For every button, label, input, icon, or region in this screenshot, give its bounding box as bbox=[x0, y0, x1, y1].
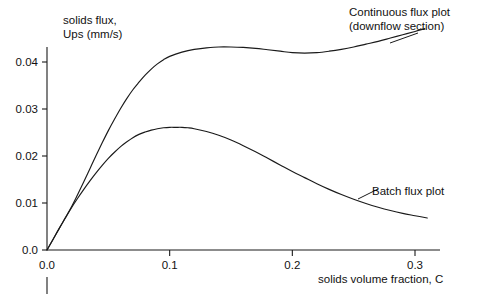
continuous-flux-label-line1: Continuous flux plot bbox=[349, 6, 451, 18]
annotation-leaders bbox=[358, 33, 418, 199]
x-tick-label-1: 0.1 bbox=[162, 259, 178, 271]
y-tick-label-2: 0.02 bbox=[16, 150, 38, 162]
y-tick-label-1: 0.01 bbox=[16, 197, 38, 209]
y-axis-tick-labels: 0.00.010.020.030.04 bbox=[16, 56, 39, 256]
y-axis-title-line1: solids flux, bbox=[63, 14, 117, 26]
continuous-flux-label-line2: (downflow section) bbox=[349, 20, 444, 32]
flux-plot-figure: 0.00.010.020.030.04 0.00.10.20.3 solids … bbox=[0, 0, 500, 303]
y-tick-label-0: 0.0 bbox=[22, 244, 38, 256]
x-tick-label-2: 0.2 bbox=[284, 259, 300, 271]
x-axis-tick-labels: 0.00.10.20.3 bbox=[39, 259, 423, 271]
continuous-flux-curve bbox=[47, 29, 425, 250]
x-axis-ticks bbox=[170, 250, 415, 256]
data-curves bbox=[47, 29, 427, 250]
x-tick-label-3: 0.3 bbox=[407, 259, 423, 271]
flux-chart: 0.00.010.020.030.04 0.00.10.20.3 solids … bbox=[0, 0, 500, 303]
y-tick-label-3: 0.03 bbox=[16, 103, 38, 115]
batch-flux-label: Batch flux plot bbox=[372, 185, 445, 197]
y-tick-label-4: 0.04 bbox=[16, 56, 39, 68]
x-tick-label-0: 0.0 bbox=[39, 259, 55, 271]
y-axis-ticks bbox=[42, 62, 47, 250]
axes bbox=[47, 47, 440, 294]
y-axis-title-line2: Ups (mm/s) bbox=[63, 28, 123, 40]
x-axis-title: solids volume fraction, C bbox=[318, 273, 443, 285]
axis-titles: solids flux, Ups (mm/s) solids volume fr… bbox=[63, 14, 443, 285]
batch-flux-curve bbox=[47, 127, 427, 250]
annotations: Continuous flux plot (downflow section) … bbox=[349, 6, 451, 197]
